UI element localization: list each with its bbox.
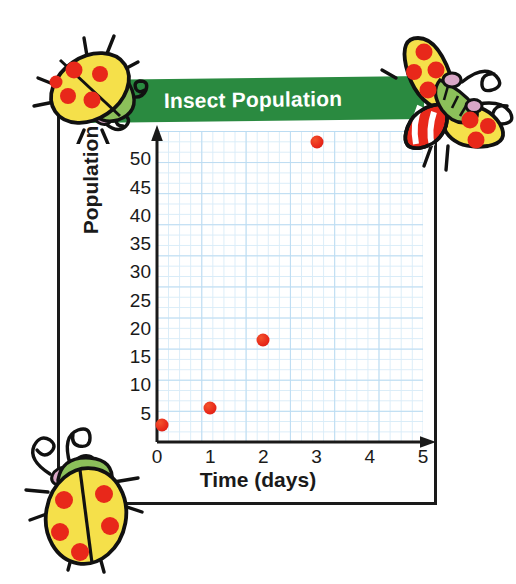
page-title: Insect Population xyxy=(164,86,343,112)
x-tick: 1 xyxy=(205,446,216,468)
y-tick: 30 xyxy=(130,261,151,283)
y-tick: 10 xyxy=(130,374,151,396)
data-point xyxy=(257,334,270,347)
ladybug-icon xyxy=(28,26,156,144)
y-tick: 20 xyxy=(130,318,151,340)
y-axis-tick-labels: 50 45 40 35 30 25 20 15 10 5 xyxy=(103,131,151,442)
data-point xyxy=(204,402,217,415)
x-tick: 3 xyxy=(311,446,322,468)
x-tick: 2 xyxy=(258,446,269,468)
x-axis-title: Time (days) xyxy=(157,468,359,492)
data-point xyxy=(310,136,323,149)
y-tick: 50 xyxy=(130,148,151,170)
y-tick: 15 xyxy=(130,346,151,368)
y-tick: 40 xyxy=(130,205,151,227)
x-tick: 4 xyxy=(365,446,376,468)
ladybug-icon xyxy=(18,408,160,574)
y-tick: 45 xyxy=(130,177,151,199)
plot-area xyxy=(157,131,423,442)
butterfly-icon xyxy=(378,20,516,172)
y-tick: 25 xyxy=(130,290,151,312)
y-tick: 35 xyxy=(130,233,151,255)
x-tick: 5 xyxy=(418,446,429,468)
